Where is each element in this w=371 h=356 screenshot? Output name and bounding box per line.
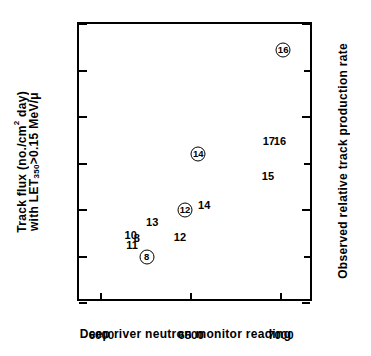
x-tick-label: 6000 [89,329,115,341]
y-tick-left [79,23,87,25]
y-tick-right [302,209,310,211]
data-point-label: 16 [274,135,286,147]
y-minor-tick-right [304,256,310,258]
y-tick-left [79,70,87,72]
y-minor-tick-right [304,163,310,165]
data-point-circled: 14 [191,147,206,162]
y-axis-right-title-text: Observed relative track production rate [336,43,350,279]
y-tick-left [79,163,87,165]
x-tick-label: 6500 [178,329,204,341]
plot-area: 00.51.01.52.02.53.0012360006500700081214… [77,22,312,301]
y-minor-tick-right [304,70,310,72]
y-axis-left-title-line1: Track flux (no./cm2 day) [13,91,28,233]
data-point-label: 13 [146,216,158,228]
x-tick [190,293,192,299]
y-tick-left [79,209,87,211]
y-tick-right [302,116,310,118]
data-point-circled: 8 [139,249,154,264]
y-tick-left [79,256,87,258]
data-point-label: 15 [262,170,274,182]
x-tick-label: 7000 [268,329,294,341]
y-tick-right [302,302,310,304]
data-point-label: 12 [174,231,186,243]
y-title-sup: 2 [12,120,21,125]
data-point-label: 11 [126,239,138,251]
y-axis-left-title-line2: with LET350>0.15 MeV/μ [28,92,41,231]
x-tick [280,293,282,299]
data-point-circled: 12 [178,203,193,218]
data-point-label: 14 [198,199,210,211]
y-title-sub: 350 [32,164,41,178]
y-title-text-d: >0.15 MeV/μ [27,92,41,164]
x-tick [100,293,102,299]
y-tick-left [79,116,87,118]
figure-root: Track flux (no./cm2 day) with LET350>0.1… [0,0,371,356]
y-tick-right [302,23,310,25]
y-axis-left-title: Track flux (no./cm2 day) with LET350>0.1… [6,24,48,299]
y-tick-left [79,302,87,304]
y-title-text-c: with LET [27,179,41,231]
y-axis-right-title: Observed relative track production rate [336,18,350,304]
data-point-circled: 16 [276,43,291,58]
